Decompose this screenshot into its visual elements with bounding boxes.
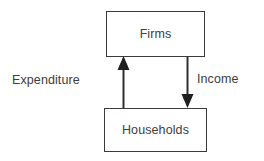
node-firms: Firms (106, 11, 205, 57)
expenditure-arrow (118, 56, 130, 108)
edge-label-expenditure: Expenditure (12, 74, 80, 87)
income-arrow (182, 57, 194, 108)
node-households: Households (104, 108, 207, 152)
edge-label-income: Income (197, 73, 239, 86)
node-households-label: Households (122, 124, 189, 137)
circular-flow-diagram: Firms Households Expenditure Income (0, 0, 264, 161)
node-firms-label: Firms (140, 28, 172, 41)
